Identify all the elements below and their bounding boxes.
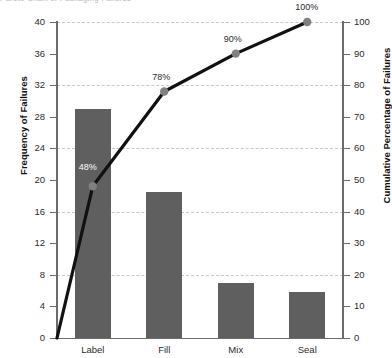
- cumulative-point-label: 78%: [152, 72, 170, 82]
- cumulative-point-label: 90%: [224, 34, 242, 44]
- cumulative-line-path: [57, 22, 307, 338]
- cumulative-markers-group: [89, 18, 312, 191]
- cumulative-point-label: 48%: [79, 162, 97, 172]
- cumulative-marker[interactable]: [232, 49, 240, 57]
- cumulative-marker[interactable]: [303, 18, 311, 26]
- cumulative-marker[interactable]: [89, 182, 97, 190]
- cumulative-point-label: 100%: [295, 2, 318, 12]
- cumulative-marker[interactable]: [160, 87, 168, 95]
